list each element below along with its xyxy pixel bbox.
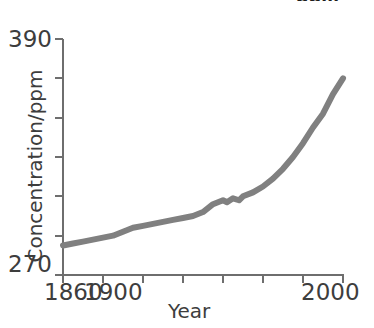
y-tick-label-390: 390 bbox=[8, 28, 52, 51]
x-tick-label-1900: 1900 bbox=[84, 281, 143, 304]
chart-figure: ppm 390 270 bbox=[0, 0, 374, 328]
data-line-co2-concentration bbox=[63, 78, 343, 245]
y-axis-title: Concentration/ppm bbox=[25, 66, 45, 266]
x-tick-label-2000: 2000 bbox=[301, 281, 360, 304]
x-axis-title: Year bbox=[168, 301, 210, 321]
y-axis-ticks bbox=[55, 39, 63, 275]
